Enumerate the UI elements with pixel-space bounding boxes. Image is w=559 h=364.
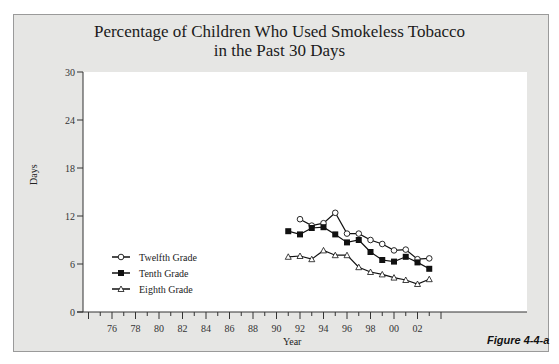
y-axis-label: Days [28,164,39,185]
open-triangle-marker-icon [426,276,432,282]
open-circle-marker-icon [297,216,303,222]
x-tick-label: 80 [154,323,164,334]
x-tick-label: 76 [107,323,117,334]
filled-square-marker-icon [297,231,303,237]
filled-square-marker-icon [321,224,327,230]
x-tick-label: 96 [342,323,352,334]
series-line [300,213,429,259]
x-tick-label: 94 [319,323,329,334]
x-tick-label: 92 [295,323,305,334]
x-tick-label: 00 [389,323,399,334]
x-tick-label: 86 [225,323,235,334]
open-circle-marker-icon [426,256,432,262]
figure-label: Figure 4-4-a [487,334,549,346]
filled-square-marker-icon [309,225,315,231]
x-tick-label: 78 [131,323,141,334]
open-circle-marker-icon [379,241,385,247]
y-tick-label: 0 [70,307,75,318]
filled-square-marker-icon [403,254,409,260]
y-tick-label: 12 [65,211,75,222]
open-circle-marker-icon [368,237,374,243]
line-chart: 06121824307678808284868890929496980002Tw… [0,0,559,364]
open-circle-marker-icon [391,248,397,254]
y-tick-label: 18 [65,163,75,174]
filled-square-marker-icon [426,266,432,272]
filled-square-marker-icon [118,270,124,276]
open-triangle-marker-icon [321,247,327,253]
open-circle-marker-icon [344,231,350,237]
filled-square-marker-icon [379,257,385,263]
y-tick-label: 6 [70,259,75,270]
filled-square-marker-icon [368,249,374,255]
x-tick-label: 98 [366,323,376,334]
filled-square-marker-icon [415,259,421,265]
filled-square-marker-icon [344,239,350,245]
y-tick-label: 24 [65,115,75,126]
legend-label: Eighth Grade [139,284,193,295]
x-tick-label: 84 [201,323,211,334]
x-axis-label: Year [283,336,301,347]
open-circle-marker-icon [332,210,338,216]
filled-square-marker-icon [332,231,338,237]
open-circle-marker-icon [356,231,362,237]
x-tick-label: 02 [413,323,423,334]
x-tick-label: 88 [248,323,258,334]
legend-label: Tenth Grade [139,268,189,279]
filled-square-marker-icon [391,259,397,265]
legend-label: Twelfth Grade [139,252,197,263]
y-tick-label: 30 [65,67,75,78]
filled-square-marker-icon [356,237,362,243]
open-circle-marker-icon [403,247,409,253]
filled-square-marker-icon [285,228,291,234]
x-tick-label: 90 [272,323,282,334]
open-circle-marker-icon [118,254,124,260]
x-tick-label: 82 [178,323,188,334]
